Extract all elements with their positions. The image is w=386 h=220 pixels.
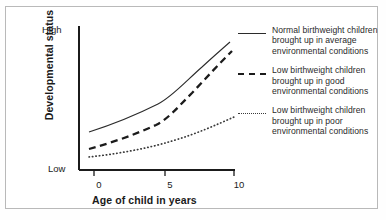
dashed-line-swatch [238, 68, 266, 80]
figure-border: High Low Developmental status 0 5 10 Age… [5, 6, 378, 209]
dotted-line-swatch [238, 108, 266, 120]
legend-item-label: Low birthweight children brought up in p… [272, 105, 384, 136]
figure-root: High Low Developmental status 0 5 10 Age… [0, 0, 386, 220]
legend-item: Normal birthweight children brought up i… [238, 25, 384, 56]
solid-line-swatch [238, 28, 266, 40]
legend-item-label: Low birthweight children brought up in g… [272, 65, 384, 96]
series-line-low-birthweight-poor [89, 117, 234, 157]
x-tick-label-5: 5 [162, 179, 178, 190]
y-axis-low-label: Low [48, 163, 65, 174]
legend-item-label: Normal birthweight children brought up i… [272, 25, 384, 56]
x-axis-title: Age of child in years [92, 194, 197, 206]
series-line-normal-birthweight [89, 42, 230, 132]
x-tick-label-0: 0 [91, 179, 107, 190]
y-axis-title: Developmental status [43, 5, 55, 125]
legend-item: Low birthweight children brought up in p… [238, 105, 384, 136]
legend: Normal birthweight children brought up i… [238, 25, 384, 146]
x-tick-label-10: 10 [231, 179, 247, 190]
series-line-low-birthweight-good [89, 51, 232, 149]
legend-item: Low birthweight children brought up in g… [238, 65, 384, 96]
